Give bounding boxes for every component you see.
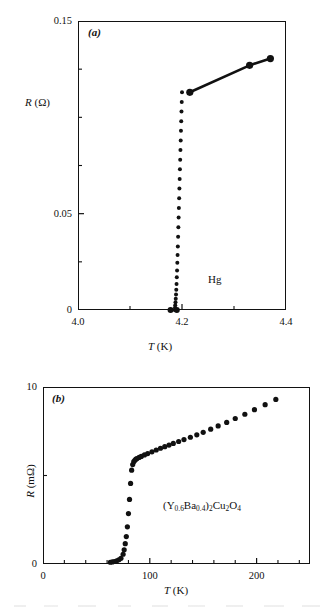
plot-b-yticklabel: 0 <box>32 559 37 570</box>
plot-a-yticklabel: 0 <box>67 305 72 316</box>
plot-a-xlabel: T (K) <box>148 340 172 352</box>
plot-b-xticklabel: 200 <box>249 571 265 582</box>
series-dotted-markers <box>173 90 184 312</box>
plot-a-xticklabel: 4.4 <box>279 317 292 328</box>
panel-b-letter: (b) <box>52 392 65 404</box>
plot-b-xticklabel: 100 <box>142 571 158 582</box>
plot-b-xlabel: T (K) <box>164 584 188 596</box>
series-markers <box>108 397 279 565</box>
plot-a-yticklabel: 0.15 <box>54 16 72 27</box>
figure-container: (a) Hg R (Ω) T (K) 4.04.24.400.050.15 (b… <box>0 0 330 611</box>
plot-b-yticklabel: 10 <box>27 382 38 393</box>
panel-b: (b) (Y0.6Ba0.4)2Cu2O4 R (mΩ) T (K) 01002… <box>0 355 330 611</box>
panel-a: (a) Hg R (Ω) T (K) 4.04.24.400.050.15 <box>0 0 330 355</box>
series-line-markers <box>186 55 274 96</box>
scan-artifact-caption <box>0 598 330 611</box>
plot-a-annotation: Hg <box>208 273 221 285</box>
plot-a-xticklabel: 4.0 <box>71 317 84 328</box>
plot-b-canvas <box>0 355 330 611</box>
panel-a-letter: (a) <box>88 26 101 38</box>
plot-b-xticklabel: 0 <box>40 571 45 582</box>
plot-a-canvas <box>0 0 330 355</box>
plot-a-xticklabel: 4.2 <box>175 317 188 328</box>
plot-b-ylabel: R (mΩ) <box>24 446 36 516</box>
plot-b-annotation: (Y0.6Ba0.4)2Cu2O4 <box>163 499 241 513</box>
plot-a-ylabel: R (Ω) <box>25 96 50 108</box>
plot-a-yticklabel: 0.05 <box>54 208 72 219</box>
